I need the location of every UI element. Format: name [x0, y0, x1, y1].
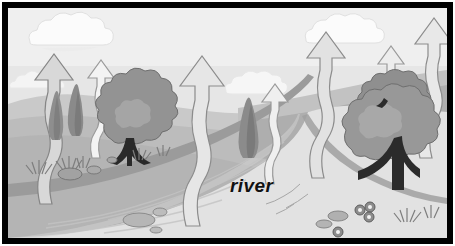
illustration-stage: river	[0, 0, 455, 246]
scene-svg	[8, 8, 447, 238]
flower-cluster-2	[333, 227, 343, 237]
illustration-frame: river	[2, 2, 453, 244]
landscape-scene	[8, 8, 447, 238]
river-label: river	[230, 176, 273, 195]
